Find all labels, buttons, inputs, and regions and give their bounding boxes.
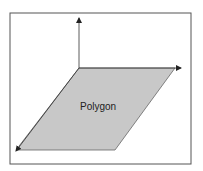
- polygon-label: Polygon: [80, 101, 116, 112]
- polygon-diagram: Polygon: [0, 0, 203, 171]
